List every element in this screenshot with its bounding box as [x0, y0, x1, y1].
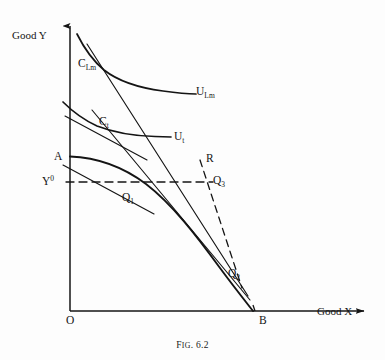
price-line-laissez-faire — [87, 44, 248, 296]
caption-smallcaps: IG — [182, 341, 191, 350]
caption-number: . 6.2 — [191, 340, 209, 350]
y-axis-label: Good Y — [12, 30, 47, 41]
point-label-c-t: Ct — [99, 116, 109, 128]
indifference-curve-u-t — [63, 102, 171, 137]
point-label-q2: Q2 — [228, 268, 240, 280]
origin-label: O — [66, 315, 74, 327]
production-possibility-frontier — [70, 157, 253, 312]
point-label-a: A — [54, 151, 62, 163]
domestic-price-line-at-q1 — [63, 165, 154, 214]
axis-group — [70, 26, 364, 311]
curve-label-u-t: Ut — [174, 131, 184, 143]
point-label-b: B — [259, 315, 267, 327]
q1-subscript: 1 — [130, 197, 134, 206]
c-lm-base: C — [78, 57, 86, 69]
c-t-base: C — [99, 115, 107, 127]
point-label-c-lm: CLm — [78, 58, 96, 70]
c-t-subscript: t — [107, 121, 109, 130]
q3-subscript: 3 — [221, 180, 225, 189]
point-label-q3: Q3 — [213, 175, 225, 187]
u-lm-subscript: Lm — [204, 91, 214, 100]
x-axis-label: Good X — [317, 306, 352, 317]
terms-of-trade-line-ct-q2 — [92, 110, 250, 300]
figure-caption: FIG. 6.2 — [0, 340, 385, 350]
curve-label-u-lm: ULm — [196, 86, 215, 98]
q2-subscript: 2 — [236, 273, 240, 282]
point-label-q1: Q1 — [122, 192, 134, 204]
point-label-y0: Y0 — [42, 176, 54, 188]
line-label-r: R — [206, 153, 214, 165]
figure-6-2: Good Y Good X O CLm ULm Ct Ut R Q3 Q1 Q2… — [0, 0, 385, 360]
y0-superscript: 0 — [50, 174, 54, 183]
c-lm-subscript: Lm — [86, 63, 96, 72]
